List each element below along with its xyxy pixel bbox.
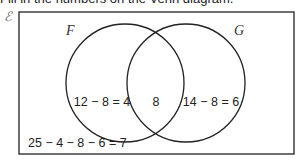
set-label-g: G: [234, 23, 244, 38]
circle-g: [127, 24, 245, 142]
region-intersection: 8: [153, 95, 160, 109]
region-f-only: 12 − 8 = 4: [74, 95, 130, 109]
region-g-only: 14 − 8 = 6: [183, 95, 239, 109]
set-label-f: F: [65, 23, 75, 38]
region-outside: 25 − 4 − 8 − 6 = 7: [28, 136, 127, 150]
universal-set-symbol: ℰ: [4, 9, 13, 24]
venn-diagram: ℰ F G 12 − 8 = 4 8 14 − 8 = 6 25 − 4 − 8…: [0, 0, 301, 163]
circle-f: [66, 24, 184, 142]
